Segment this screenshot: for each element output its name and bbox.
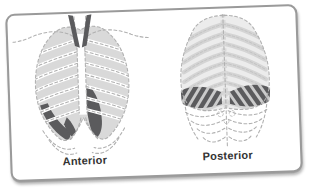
ribcage-anterior-illustration (8, 12, 156, 163)
ribcage-posterior-illustration (151, 7, 299, 158)
panel-label-anterior: Anterior (62, 154, 107, 168)
panel-label-posterior: Posterior (202, 149, 252, 163)
page-background: Anterior (0, 0, 310, 189)
panel-anterior: Anterior (8, 12, 157, 180)
panel-posterior: Posterior (151, 7, 300, 175)
illustration-card: Anterior (5, 4, 303, 182)
